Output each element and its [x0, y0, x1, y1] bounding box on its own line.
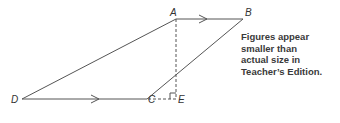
- segment-bc: [147, 19, 243, 99]
- label-c: C: [148, 94, 156, 105]
- segment-ad: [22, 19, 176, 99]
- note-line: actual size in: [241, 54, 336, 66]
- note-line: Teacher’s Edition.: [241, 66, 336, 78]
- right-angle-mark-icon: [170, 93, 176, 99]
- label-e: E: [178, 94, 185, 105]
- note-line: Figures appear: [241, 31, 336, 43]
- label-a: A: [169, 7, 177, 18]
- size-note: Figures appear smaller than actual size …: [241, 31, 336, 77]
- note-line: smaller than: [241, 43, 336, 55]
- label-b: B: [245, 7, 252, 18]
- label-d: D: [11, 94, 18, 105]
